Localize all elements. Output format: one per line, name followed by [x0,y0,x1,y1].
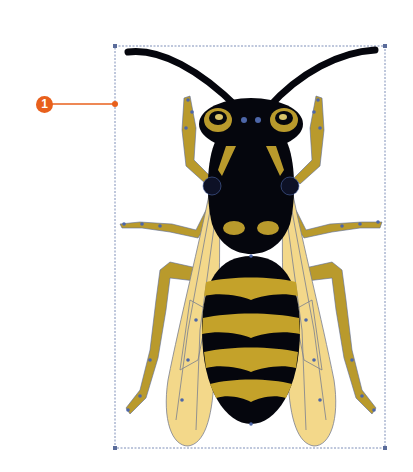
callout-1-badge: 1 [36,96,53,113]
wasp-diagram: 1 [0,0,413,472]
wasp-abdomen [202,256,300,424]
callout-1-leader [52,101,118,107]
